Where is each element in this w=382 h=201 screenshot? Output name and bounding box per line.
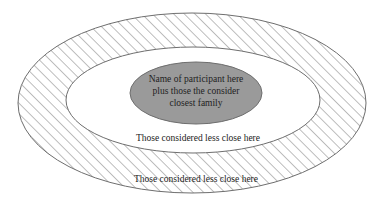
core-label-line-2: plus those the consider bbox=[153, 86, 241, 96]
closeness-circles-diagram: Name of participant here plus those the … bbox=[0, 0, 382, 201]
middle-ring-label: Those considered less close here bbox=[136, 133, 260, 143]
outer-ring-label: Those considered less close here bbox=[134, 174, 258, 184]
core-label-line-1: Name of participant here bbox=[149, 74, 244, 84]
core-label-line-3: closest family bbox=[169, 98, 222, 108]
